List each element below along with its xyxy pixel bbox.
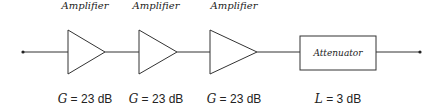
amplifier-1-triangle — [68, 30, 105, 74]
amplifier-3-gain: G = 23 dB — [207, 92, 262, 106]
amplifier-3-triangle — [210, 30, 257, 74]
amplifier-1-gain: G = 23 dB — [58, 92, 113, 106]
attenuator-label: Attenuator — [313, 48, 362, 58]
amplifier-2-gain: G = 23 dB — [129, 92, 184, 106]
input-terminal-dot — [21, 50, 24, 53]
output-terminal-dot — [418, 50, 421, 53]
amplifier-2-label: Amplifier — [133, 0, 180, 11]
amplifier-2-triangle — [139, 30, 177, 74]
attenuator-loss: L = 3 dB — [315, 92, 361, 106]
amplifier-3-label: Amplifier — [211, 0, 258, 11]
amplifier-1-label: Amplifier — [62, 0, 109, 11]
